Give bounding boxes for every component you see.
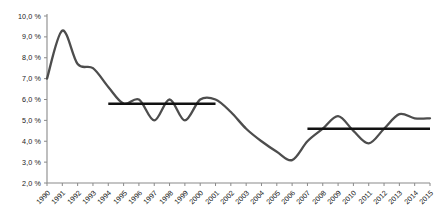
chart-axes — [47, 14, 430, 183]
y-axis-tick-label: 3,0 % — [0, 158, 41, 167]
y-axis-tick-label: 5,0 % — [0, 116, 41, 125]
line-chart-plot — [0, 0, 437, 222]
chart-container: 10,0 %9,0 %8,0 %7,0 %6,0 %5,0 %4,0 %3,0 … — [0, 0, 437, 222]
y-axis-tick-label: 4,0 % — [0, 137, 41, 146]
y-axis-tick-label: 6,0 % — [0, 95, 41, 104]
y-axis-tick-label: 10,0 % — [0, 12, 41, 21]
y-axis-tick-label: 7,0 % — [0, 74, 41, 83]
y-axis-tick-label: 2,0 % — [0, 179, 41, 188]
y-axis-tick-label: 8,0 % — [0, 53, 41, 62]
data-series-line — [47, 30, 430, 160]
y-axis-tick-label: 9,0 % — [0, 32, 41, 41]
